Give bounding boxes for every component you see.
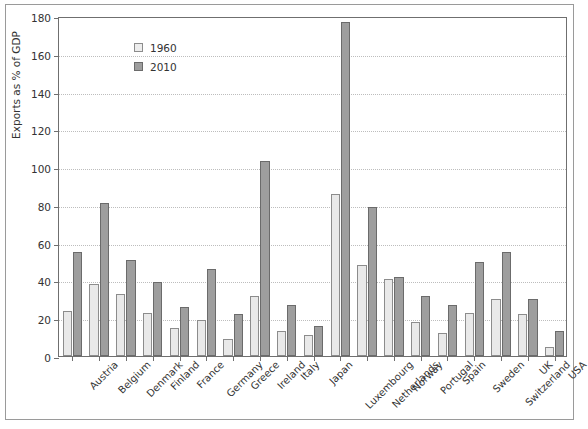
y-axis-tick-label: 140 xyxy=(31,88,51,100)
legend-item-2010: 2010 xyxy=(134,59,177,74)
bar xyxy=(223,339,232,356)
y-axis-tick-label: 0 xyxy=(44,352,51,364)
y-axis-tick-label: 40 xyxy=(38,276,51,288)
bar xyxy=(260,161,269,356)
x-axis-label: Japan xyxy=(327,359,354,386)
y-axis-tick-label: 180 xyxy=(31,12,51,24)
gridline xyxy=(59,207,566,208)
y-axis-tick xyxy=(54,131,59,132)
bar xyxy=(341,22,350,356)
y-axis-title: Exports as % of GDP xyxy=(8,17,24,357)
bar xyxy=(73,252,82,356)
y-axis-tick-label: 20 xyxy=(38,314,51,326)
bar xyxy=(368,207,377,356)
bar xyxy=(180,307,189,356)
legend-label-2010: 2010 xyxy=(150,61,177,73)
bar xyxy=(89,284,98,356)
bar xyxy=(448,305,457,356)
y-axis-tick xyxy=(54,320,59,321)
legend-swatch-1960-icon xyxy=(134,43,143,52)
bar xyxy=(126,260,135,356)
bar xyxy=(475,262,484,356)
y-axis-tick xyxy=(54,282,59,283)
bar xyxy=(357,265,366,356)
bar xyxy=(491,299,500,356)
bar xyxy=(100,203,109,356)
bar xyxy=(207,269,216,356)
y-axis-tick-label: 160 xyxy=(31,50,51,62)
y-axis-tick xyxy=(54,207,59,208)
y-axis-tick xyxy=(54,245,59,246)
bar xyxy=(331,194,340,356)
y-axis-tick-label: 100 xyxy=(31,163,51,175)
x-axis-label: Sweden xyxy=(491,359,527,395)
bar xyxy=(528,299,537,356)
gridline xyxy=(59,131,566,132)
bar xyxy=(250,296,259,356)
bar xyxy=(143,313,152,356)
gridline xyxy=(59,94,566,95)
bar xyxy=(116,294,125,356)
y-axis-tick xyxy=(54,169,59,170)
gridline xyxy=(59,245,566,246)
bar xyxy=(287,305,296,356)
bar xyxy=(545,347,554,356)
bar xyxy=(502,252,511,356)
y-axis-tick xyxy=(54,56,59,57)
bar xyxy=(438,333,447,356)
y-axis-tick xyxy=(54,94,59,95)
bar xyxy=(518,314,527,356)
y-axis-tick-label: 120 xyxy=(31,125,51,137)
y-axis-tick xyxy=(54,18,59,19)
legend-item-1960: 1960 xyxy=(134,40,177,55)
bar xyxy=(421,296,430,356)
bar xyxy=(394,277,403,356)
legend-label-1960: 1960 xyxy=(150,42,177,54)
bar xyxy=(234,314,243,356)
gridline xyxy=(59,169,566,170)
x-axis-tick-label: Japan xyxy=(327,359,354,386)
legend-swatch-2010-icon xyxy=(134,62,143,71)
y-axis-tick-label: 80 xyxy=(38,201,51,213)
bar xyxy=(304,335,313,356)
y-axis-tick-label: 60 xyxy=(38,239,51,251)
bar xyxy=(63,311,72,356)
plot-area: 020406080100120140160180 1960 2010 xyxy=(58,17,567,357)
bar xyxy=(465,313,474,356)
bar xyxy=(153,282,162,356)
bar xyxy=(197,320,206,356)
x-axis-labels: AustriaBelgiumDenmarkFinlandFranceGerman… xyxy=(58,359,567,419)
bar xyxy=(277,331,286,356)
bar xyxy=(555,331,564,356)
bar xyxy=(384,279,393,356)
chart-legend: 1960 2010 xyxy=(134,40,177,78)
y-axis-title-text: Exports as % of GDP xyxy=(10,31,22,139)
bar xyxy=(170,328,179,356)
bar xyxy=(314,326,323,356)
bar xyxy=(411,322,420,356)
x-axis-tick-label: Sweden xyxy=(491,359,527,395)
